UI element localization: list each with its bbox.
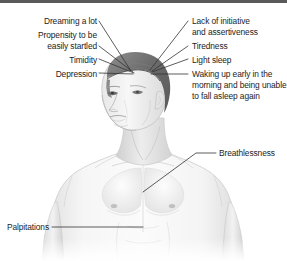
- label-waking-up-early-line3: to fall asleep again: [192, 91, 260, 101]
- label-lack-of-initiative-line2: and assertiveness: [192, 27, 258, 37]
- leader-initiative: [150, 21, 188, 70]
- label-propensity-startled-line1: Propensity to be: [38, 30, 97, 40]
- label-timidity: Timidity: [69, 55, 97, 65]
- label-light-sleep: Light sleep: [192, 55, 231, 65]
- label-propensity-startled-line2: easily startled: [47, 41, 97, 51]
- label-breathlessness: Breathlessness: [219, 148, 275, 158]
- label-palpitations: Palpitations: [7, 222, 49, 232]
- label-lack-of-initiative-line1: Lack of initiative: [192, 16, 250, 26]
- label-dreaming-a-lot: Dreaming a lot: [44, 16, 97, 26]
- label-waking-up-early-line2: morning and being unable: [192, 80, 286, 90]
- label-tiredness: Tiredness: [192, 41, 228, 51]
- label-depression: Depression: [56, 69, 97, 79]
- label-waking-up-early-line1: Waking up early in the: [192, 69, 272, 79]
